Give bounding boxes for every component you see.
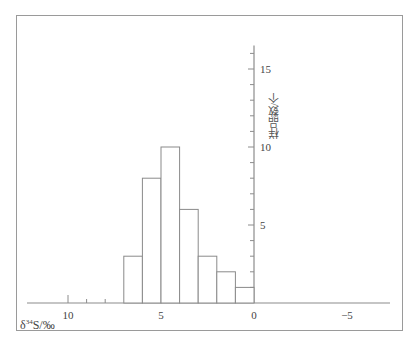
histogram-bar [124,256,143,303]
histogram-bar [217,272,236,303]
y-tick-label: 5 [260,219,266,231]
histogram-bar [198,256,217,303]
histogram-bar [142,178,161,303]
histogram-chart: 510151050−5 [0,0,415,348]
histogram-bars [124,147,254,303]
histogram-bar [235,287,254,303]
x-tick-label: 5 [158,309,164,321]
x-axis-title: δ34S/‰ [20,318,55,333]
x-tick-label: −5 [341,309,353,321]
x-tick-label: 0 [251,309,257,321]
y-axis-title: 样品数/个 [266,60,282,170]
histogram-bar [161,147,180,303]
x-tick-label: 10 [63,309,75,321]
histogram-bar [180,209,199,303]
